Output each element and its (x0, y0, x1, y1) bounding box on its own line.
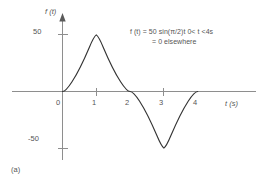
x-tick-label-0: 0 (56, 99, 60, 107)
equation-line-2: = 0 elsewhere (152, 38, 196, 45)
x-tick-label-4: 4 (193, 99, 197, 107)
x-tick-label-2: 2 (125, 99, 129, 107)
x-tick-label-3: 3 (159, 99, 163, 107)
figure-panel-a: f (t) 50 -50 0 1 2 3 4 t (s) f (t) = 50 … (0, 0, 265, 192)
y-axis-title: f (t) (45, 8, 56, 16)
equation-line-1: f (t) = 50 sin(π/2)t 0< t <4s (130, 28, 213, 35)
y-tick-label-50: 50 (33, 28, 42, 36)
x-tick-label-1: 1 (92, 99, 96, 107)
x-axis-title: t (s) (225, 100, 238, 108)
figure-caption: (a) (11, 166, 20, 174)
y-tick-label-neg50: -50 (28, 135, 39, 143)
y-axis-arrowhead-icon (59, 13, 65, 22)
